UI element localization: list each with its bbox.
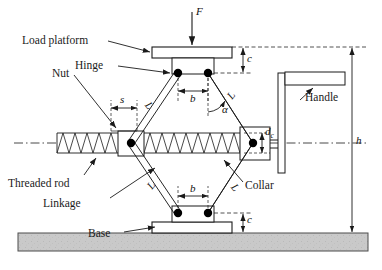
load-platform [152,47,232,74]
symbol-force-F: F [196,6,203,17]
label-handle: Handle [305,92,338,104]
label-nut: Nut [52,68,69,80]
label-base: Base [88,228,110,240]
symbol-angle-alpha: α [222,104,228,115]
hinge-top-left [174,69,182,77]
label-linkage: Linkage [43,198,81,210]
threaded-rod [57,133,242,153]
handle [270,72,345,173]
leader-threaded-rod [84,158,96,175]
figure-canvas: Load platform Hinge Nut Threaded rod Lin… [0,0,382,270]
ground-surface [18,233,368,251]
leader-load-platform [108,41,150,52]
collar-pivot [249,139,257,147]
hinge-bottom-left [174,209,182,217]
label-threaded-rod: Threaded rod [8,178,70,190]
symbol-collar-diameter: dc [265,126,274,140]
symbol-b-top: b [190,93,196,104]
label-collar: Collar [245,180,274,192]
symbol-stroke-s: s [120,94,124,105]
symbol-c-top: c [247,53,252,64]
leader-hinge [118,66,170,73]
leader-nut [74,75,116,128]
symbol-b-bottom: b [190,183,196,194]
symbol-height-h: h [356,135,362,146]
nut-pivot [127,139,135,147]
dimension-c-top [214,47,368,73]
leader-base [124,227,155,232]
hinge-bottom-right [204,209,212,217]
label-load-platform: Load platform [22,35,88,47]
base-block [152,206,232,233]
hinge-top-right [204,69,212,77]
symbol-dc-sub: c [271,131,274,140]
label-hinge: Hinge [75,60,103,72]
symbol-c-bottom: c [247,214,252,225]
